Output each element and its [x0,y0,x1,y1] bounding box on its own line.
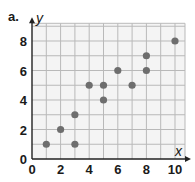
data-point [86,82,93,89]
x-tick-label: 0 [28,162,35,177]
x-tick-label: 8 [143,162,150,177]
data-point [129,82,136,89]
data-point [43,141,50,148]
x-tick-label: 2 [57,162,64,177]
x-axis-label: x [174,143,183,159]
data-point [100,96,107,103]
data-point [143,67,150,74]
y-axis-label: y [35,10,44,26]
y-tick-label: 4 [20,93,28,108]
x-tick-label: 4 [86,162,94,177]
panel-label: a. [8,9,19,24]
scatter-chart: 024681002468 a. y x [0,0,195,182]
data-point [71,111,78,118]
x-tick-label: 10 [168,162,182,177]
data-point [143,52,150,59]
y-tick-label: 8 [20,34,27,49]
data-point [71,141,78,148]
y-tick-label: 2 [20,123,27,138]
data-point [171,37,178,44]
plot-area [32,23,185,159]
y-tick-label: 0 [20,152,27,167]
data-point [100,82,107,89]
data-point [57,126,64,133]
data-point [114,67,121,74]
y-tick-label: 6 [20,64,27,79]
x-tick-label: 6 [114,162,121,177]
